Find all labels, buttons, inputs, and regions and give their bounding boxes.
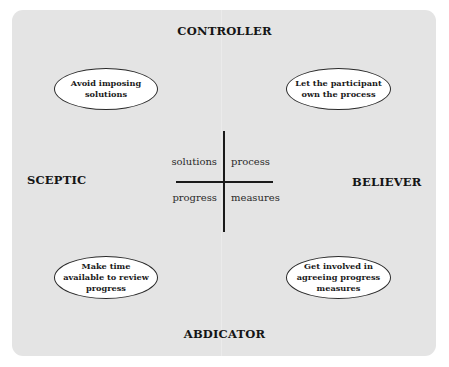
axis-label-abdicator: ABDICATOR bbox=[0, 329, 449, 341]
ellipse-text-bottom-left: Make time available to review progress bbox=[61, 261, 151, 294]
axis-label-sceptic: SCEPTIC bbox=[27, 175, 86, 187]
ellipse-bottom-right: Get involved in agreeing progress measur… bbox=[286, 256, 391, 299]
ellipse-text-bottom-right: Get involved in agreeing progress measur… bbox=[293, 261, 384, 294]
axis-label-believer: BELIEVER bbox=[352, 177, 422, 189]
cross-horizontal-line bbox=[176, 181, 273, 183]
center-word-measures: measures bbox=[231, 193, 280, 203]
center-word-process: process bbox=[231, 157, 270, 167]
center-word-solutions: solutions bbox=[171, 157, 217, 167]
ellipse-top-right: Let the participant own the process bbox=[286, 68, 391, 110]
ellipse-top-left: Avoid imposing solutions bbox=[54, 68, 158, 110]
ellipse-text-top-left: Avoid imposing solutions bbox=[61, 78, 151, 100]
center-word-progress: progress bbox=[172, 193, 217, 203]
background-seam bbox=[221, 10, 222, 356]
ellipse-text-top-right: Let the participant own the process bbox=[293, 78, 384, 100]
ellipse-bottom-left: Make time available to review progress bbox=[54, 256, 158, 299]
axis-label-controller: CONTROLLER bbox=[0, 26, 449, 38]
